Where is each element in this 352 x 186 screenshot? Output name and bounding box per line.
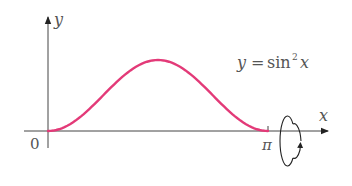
y-axis-label: y bbox=[53, 10, 64, 29]
equation-arg: x bbox=[300, 53, 309, 72]
equation-label: y = sin 2 x bbox=[236, 52, 309, 72]
solid-of-revolution-diagram: y x 0 π y = sin 2 x bbox=[0, 0, 352, 186]
equation-lhs: y bbox=[236, 53, 247, 72]
equation-func: sin bbox=[267, 53, 291, 72]
sin-squared-curve bbox=[48, 60, 268, 131]
equation-exponent: 2 bbox=[292, 52, 298, 62]
pi-label: π bbox=[261, 136, 273, 154]
x-axis-label: x bbox=[319, 106, 328, 125]
origin-label: 0 bbox=[30, 135, 40, 153]
equation-equals: = bbox=[251, 53, 264, 72]
rotation-arrow-icon bbox=[280, 116, 301, 166]
